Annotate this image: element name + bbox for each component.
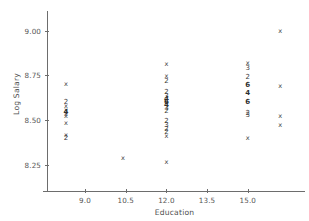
data-point-marker: x: [278, 82, 282, 89]
y-tick: [45, 165, 49, 166]
x-axis-line: [43, 191, 305, 192]
data-point-marker: x: [64, 81, 68, 88]
data-point-count: 6: [245, 99, 250, 106]
data-point-count: 4: [245, 90, 250, 97]
data-point-count: 3: [246, 65, 250, 72]
x-tick: [166, 189, 167, 193]
data-point-marker: x: [278, 113, 282, 120]
y-tick-label: 8.75: [25, 71, 41, 80]
data-point-marker: x: [246, 135, 250, 142]
y-tick-label: 9.00: [25, 26, 41, 35]
x-tick-label: 9.0: [79, 196, 91, 205]
y-tick-label: 8.50: [25, 115, 41, 124]
data-point-count: 6: [245, 82, 250, 89]
data-point-count: 2: [164, 108, 168, 115]
x-tick: [207, 189, 208, 193]
data-point-marker: x: [121, 155, 125, 162]
x-tick: [85, 189, 86, 193]
x-tick-label: 13.5: [199, 196, 215, 205]
y-axis-title: Log Salary: [12, 73, 21, 115]
x-axis-title: Education: [155, 208, 195, 217]
y-tick: [45, 75, 49, 76]
y-tick: [45, 120, 49, 121]
data-point-count: 2: [246, 73, 250, 80]
data-point-count: 2: [64, 135, 68, 142]
x-tick-label: 15.0: [240, 196, 256, 205]
x-tick-label: 12.0: [158, 196, 174, 205]
y-tick: [45, 31, 49, 32]
x-tick: [126, 189, 127, 193]
x-tick: [248, 189, 249, 193]
data-point-count: 2: [164, 78, 168, 85]
data-point-marker: x: [278, 122, 282, 129]
data-point-count: 3: [246, 112, 250, 119]
scatter-plot: 9.010.512.013.515.0 8.258.508.759.00 x2x…: [0, 0, 309, 221]
x-tick-label: 10.5: [117, 196, 133, 205]
data-point-marker: x: [164, 159, 168, 166]
data-point-marker: x: [164, 60, 168, 67]
data-point-marker: x: [164, 132, 168, 139]
data-point-marker: x: [278, 28, 282, 35]
data-point-marker: x: [64, 119, 68, 126]
y-tick-label: 8.25: [25, 160, 41, 169]
